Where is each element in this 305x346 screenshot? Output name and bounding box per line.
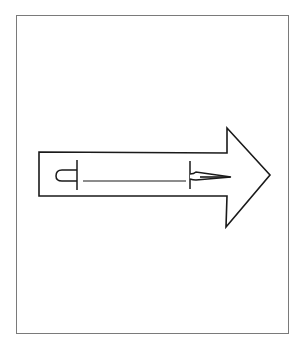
arrow-diagram: [0, 0, 305, 346]
arrow-outline: [39, 128, 270, 227]
